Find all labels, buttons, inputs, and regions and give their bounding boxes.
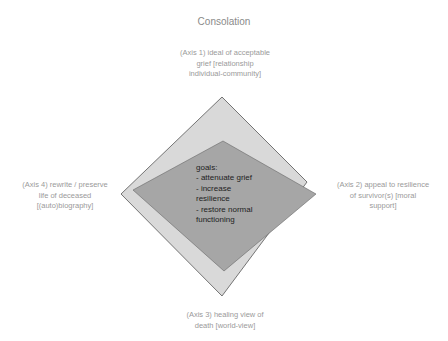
goal-item: - attenuate grief — [196, 173, 252, 183]
goals-text: goals: - attenuate grief - increase resi… — [196, 163, 252, 225]
goals-heading: goals: — [196, 163, 252, 173]
goal-item: resilience — [196, 194, 252, 204]
goal-item: functioning — [196, 215, 252, 225]
goal-item: - increase — [196, 184, 252, 194]
goal-item: - restore normal — [196, 205, 252, 215]
